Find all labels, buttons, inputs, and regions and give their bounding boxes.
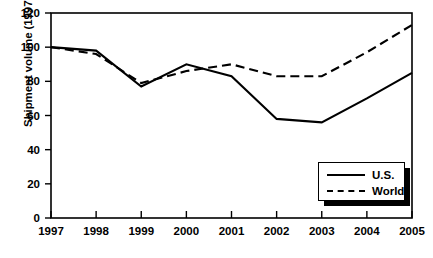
y-tick-marks (45, 13, 51, 218)
x-tick-marks (51, 211, 412, 218)
series-line-world (51, 25, 412, 83)
series-line-us (51, 47, 412, 122)
legend-swatch-solid-icon (327, 174, 365, 176)
chart-container: Shipment volume (1997 = 100) 02040608010… (0, 0, 433, 258)
legend-swatch-dashed-icon (327, 190, 365, 192)
legend-box[interactable]: U.S. World (318, 162, 405, 201)
legend-label-us: U.S. (372, 169, 394, 181)
plot-area (0, 0, 433, 258)
legend-item-us[interactable]: U.S. (327, 168, 394, 182)
legend-item-world[interactable]: World (327, 184, 404, 198)
legend-label-world: World (372, 185, 404, 197)
